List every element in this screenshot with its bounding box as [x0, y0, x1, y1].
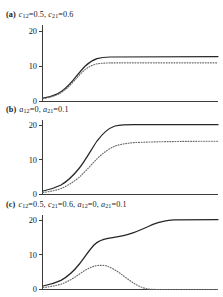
panel-b-ytick-label-20: 20 — [29, 121, 37, 130]
panel-c-ytick-label-10: 10 — [29, 251, 37, 260]
panel-a-tag: (a) — [6, 10, 16, 19]
panel-a: (a)c12=0.5, c21=0.6 20 10 0 — [0, 8, 223, 105]
panel-b: (b)a12=0, a21=0.1 20 10 0 — [0, 103, 223, 198]
panel-b-ytick-label-10: 10 — [29, 156, 37, 165]
panel-b-caption: (b)a12=0, a21=0.1 — [6, 103, 69, 117]
panel-c-curve-dotted — [43, 265, 218, 289]
panel-b-curve-solid — [43, 125, 218, 191]
panel-b-plot: 20 10 0 — [0, 116, 223, 198]
panel-c-ytick-label-0: 0 — [33, 285, 37, 294]
panel-a-ytick-label-20: 20 — [29, 27, 37, 36]
panel-c-caption: (c)c12=0.5, c21=0.6, a12=0, a21=0.1 — [6, 198, 127, 212]
panel-c-tag: (c) — [6, 200, 15, 209]
panel-a-params: c12=0.5, c21=0.6 — [19, 10, 74, 19]
panel-c-ytick-label-20: 20 — [29, 216, 37, 225]
panel-c-params: c12=0.5, c21=0.6, a12=0, a21=0.1 — [18, 200, 126, 209]
panel-a-curve-dotted — [43, 63, 218, 99]
panel-a-ytick-label-10: 10 — [29, 62, 37, 71]
panel-b-tag: (b) — [6, 105, 16, 114]
panel-a-svg: 20 10 0 — [0, 21, 223, 105]
panel-c-curve-solid — [43, 220, 218, 286]
panel-c-svg: 20 10 0 — [0, 211, 223, 297]
panel-b-curve-dotted — [43, 141, 218, 192]
figure-three-panel-time-series: (a)c12=0.5, c21=0.6 20 10 0 (b)a — [0, 0, 223, 297]
panel-b-params: a12=0, a21=0.1 — [19, 105, 68, 114]
panel-a-axes: 20 10 0 — [29, 25, 218, 105]
panel-c-plot: 20 10 0 — [0, 211, 223, 297]
panel-a-plot: 20 10 0 — [0, 21, 223, 105]
panel-a-caption: (a)c12=0.5, c21=0.6 — [6, 8, 74, 22]
panel-b-ytick-label-0: 0 — [33, 190, 37, 198]
panel-c: (c)c12=0.5, c21=0.6, a12=0, a21=0.1 20 1… — [0, 198, 223, 297]
panel-b-svg: 20 10 0 — [0, 116, 223, 198]
